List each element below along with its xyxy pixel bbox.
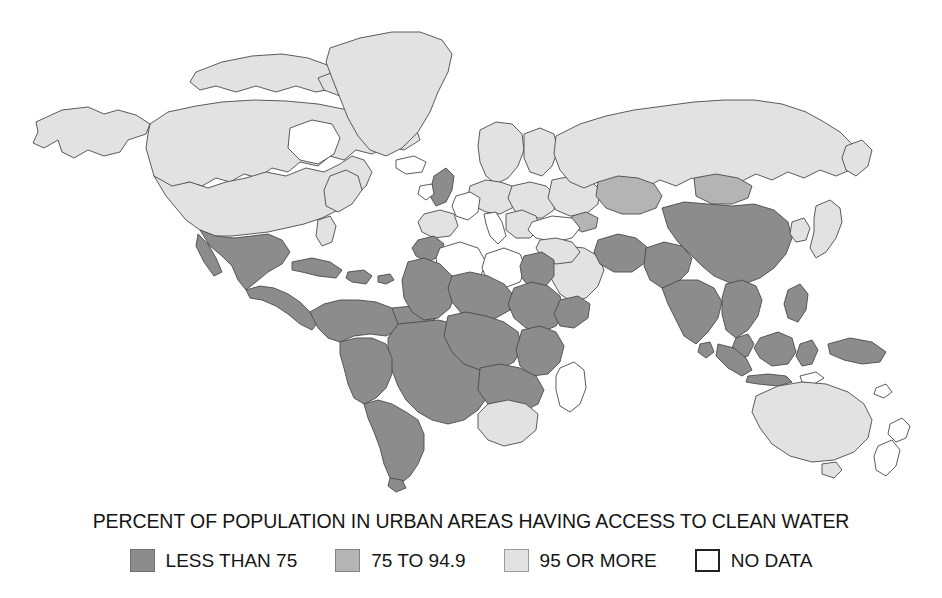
region-hispaniola[interactable] bbox=[346, 270, 372, 284]
region-east-africa[interactable] bbox=[516, 326, 564, 376]
region-korea[interactable] bbox=[790, 218, 810, 242]
region-italy[interactable] bbox=[484, 212, 506, 244]
legend-item-no-data[interactable]: NO DATA bbox=[695, 549, 813, 572]
region-japan[interactable] bbox=[810, 200, 842, 258]
region-alaska[interactable] bbox=[33, 107, 150, 158]
region-united-kingdom[interactable] bbox=[430, 168, 454, 206]
region-horn-of-africa[interactable] bbox=[554, 296, 590, 328]
region-south-africa[interactable] bbox=[478, 400, 538, 446]
region-chile-argentina[interactable] bbox=[364, 400, 424, 484]
region-finland-baltics[interactable] bbox=[524, 128, 558, 176]
region-tasmania[interactable] bbox=[822, 462, 842, 478]
region-new-zealand-north[interactable] bbox=[888, 418, 910, 442]
region-peru-bolivia[interactable] bbox=[340, 338, 392, 404]
region-iceland[interactable] bbox=[396, 156, 426, 174]
world-map-figure: PERCENT OF POPULATION IN URBAN AREAS HAV… bbox=[0, 0, 942, 598]
region-russia[interactable] bbox=[554, 100, 858, 188]
legend-label-75-to-94-9: 75 TO 94.9 bbox=[371, 551, 465, 570]
legend-item-75-to-94-9[interactable]: 75 TO 94.9 bbox=[335, 549, 465, 572]
region-iberia[interactable] bbox=[418, 210, 458, 238]
legend-item-95-or-more[interactable]: 95 OR MORE bbox=[504, 549, 657, 572]
region-sudan-ethiopia[interactable] bbox=[508, 282, 564, 332]
legend-swatch-95-or-more bbox=[504, 549, 529, 572]
region-pacific-islands[interactable] bbox=[874, 384, 892, 398]
region-sri-lanka[interactable] bbox=[698, 342, 714, 358]
region-france[interactable] bbox=[452, 192, 480, 220]
map-caption-block: PERCENT OF POPULATION IN URBAN AREAS HAV… bbox=[0, 498, 942, 598]
world-map-svg[interactable] bbox=[0, 0, 942, 498]
region-kamchatka[interactable] bbox=[842, 140, 872, 176]
region-colombia-venezuela[interactable] bbox=[310, 300, 402, 342]
legend-item-less-than-75[interactable]: LESS THAN 75 bbox=[130, 549, 298, 572]
region-philippines[interactable] bbox=[784, 284, 808, 322]
region-new-zealand-south[interactable] bbox=[874, 440, 900, 476]
legend-swatch-75-to-94-9 bbox=[335, 549, 360, 572]
region-madagascar[interactable] bbox=[556, 362, 586, 412]
region-puerto-rico[interactable] bbox=[378, 274, 394, 284]
region-central-america[interactable] bbox=[246, 286, 318, 330]
region-india[interactable] bbox=[662, 280, 722, 344]
region-florida[interactable] bbox=[316, 216, 336, 246]
region-cuba-caribbean[interactable] bbox=[292, 258, 342, 278]
region-java[interactable] bbox=[746, 374, 792, 386]
region-us-east-coast[interactable] bbox=[324, 170, 362, 212]
map-title: PERCENT OF POPULATION IN URBAN AREAS HAV… bbox=[0, 498, 942, 532]
region-scandinavia[interactable] bbox=[478, 122, 524, 184]
region-papua-new-guinea[interactable] bbox=[828, 338, 886, 364]
region-borneo[interactable] bbox=[754, 332, 796, 366]
map-canvas[interactable] bbox=[0, 0, 942, 498]
region-canadian-arctic-islands[interactable] bbox=[190, 54, 344, 92]
legend-swatch-less-than-75 bbox=[130, 549, 155, 572]
region-australia[interactable] bbox=[752, 382, 872, 462]
legend-label-95-or-more: 95 OR MORE bbox=[540, 551, 657, 570]
region-sulawesi[interactable] bbox=[796, 340, 818, 366]
map-legend: LESS THAN 75 75 TO 94.9 95 OR MORE NO DA… bbox=[0, 549, 942, 572]
region-egypt[interactable] bbox=[520, 252, 554, 288]
legend-label-no-data: NO DATA bbox=[731, 551, 813, 570]
legend-label-less-than-75: LESS THAN 75 bbox=[166, 551, 298, 570]
legend-swatch-no-data bbox=[695, 549, 720, 572]
region-southeast-asia[interactable] bbox=[722, 280, 762, 338]
